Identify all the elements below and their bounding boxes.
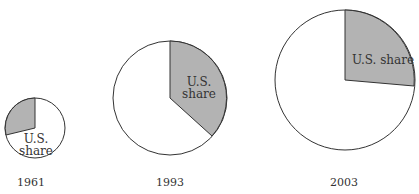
- pie-charts: U.S. share 1961 U.S. share 1993 U.S. sha…: [0, 0, 419, 194]
- slice-label-1961-line2: share: [19, 144, 53, 158]
- pie-2003: U.S. share 2003: [275, 10, 415, 189]
- pie-1993: U.S. share 1993: [113, 41, 227, 189]
- year-label-1961: 1961: [17, 176, 45, 189]
- us-share-slice-2003: [345, 10, 414, 86]
- year-label-2003: 2003: [330, 176, 358, 189]
- slice-label-1993-line2: share: [182, 87, 216, 101]
- pie-1961: U.S. share 1961: [5, 98, 65, 189]
- us-share-slice-1961: [5, 98, 35, 135]
- year-label-1993: 1993: [156, 176, 184, 189]
- slice-label-2003: U.S. share: [352, 53, 414, 67]
